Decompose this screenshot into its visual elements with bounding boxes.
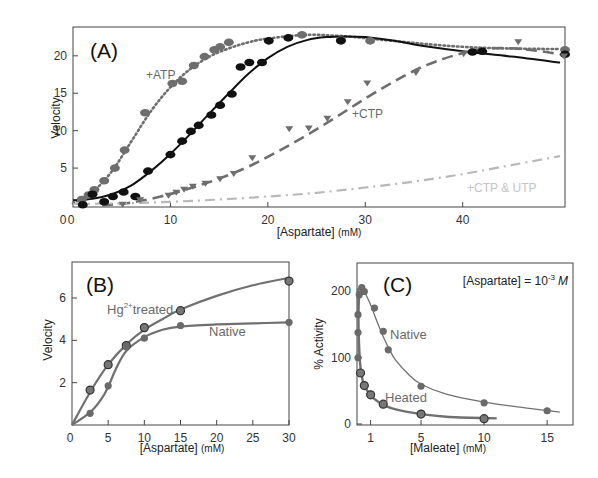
data-point — [99, 177, 109, 185]
data-point — [354, 354, 361, 361]
panel-b-curves — [72, 278, 289, 425]
data-point — [215, 43, 225, 51]
curve--atp — [73, 35, 560, 203]
data-point — [123, 343, 130, 350]
data-point — [140, 109, 150, 117]
panel-c-label: (C) — [383, 273, 412, 296]
data-point — [164, 193, 172, 199]
panel-a-chart: 01020304005101520 (A) +ATP +CTP +CTP & U… — [49, 27, 570, 239]
panel-c-xlabel: [Maleate] (mM) — [410, 441, 486, 455]
data-point — [467, 48, 477, 56]
panel-c-ylabel: % Activity — [312, 318, 326, 369]
data-point — [412, 70, 420, 76]
x-tick-label: 0 — [67, 431, 74, 445]
data-point — [514, 39, 522, 45]
data-point — [87, 190, 97, 198]
data-point — [186, 128, 196, 136]
panel-c-chart: 1510150100200 (C) [Aspartate] = 10-3M Na… — [312, 263, 573, 455]
data-point — [544, 407, 551, 414]
data-point — [86, 410, 93, 417]
data-point — [354, 329, 361, 336]
data-point — [481, 399, 488, 406]
data-point — [86, 386, 94, 394]
y-tick-label: 2 — [59, 376, 66, 390]
data-point — [230, 171, 238, 177]
data-point — [165, 151, 175, 159]
panel-b-markers — [86, 277, 293, 417]
data-point — [215, 101, 225, 109]
svg-text:0: 0 — [60, 213, 67, 227]
curve-native — [72, 322, 289, 425]
series-label-ctp: +CTP — [352, 107, 383, 121]
x-tick-label: 10 — [164, 213, 178, 227]
panel-b-chart: 051015202530246 (B) Hg2+treated Native V… — [41, 262, 296, 455]
y-tick-label: 200 — [331, 284, 351, 298]
y-tick-label: 6 — [59, 291, 66, 305]
data-point — [119, 188, 129, 196]
data-point — [380, 328, 387, 335]
curve-hg2-treated — [72, 278, 289, 425]
data-point — [361, 288, 368, 295]
series-label-hg-treated: Hg2+treated — [107, 301, 173, 317]
panel-b-label: (B) — [86, 273, 114, 296]
series-label-heated: Heated — [385, 390, 427, 405]
data-point — [141, 335, 148, 342]
data-point — [257, 59, 267, 67]
data-point — [224, 39, 234, 47]
y-tick-label: 100 — [331, 351, 351, 365]
data-point — [143, 167, 153, 175]
panel-a-xlabel: [Aspartate] (mM) — [277, 225, 362, 239]
data-point — [480, 415, 488, 423]
panel-c-markers — [354, 284, 550, 423]
data-point — [177, 77, 187, 85]
data-point — [417, 410, 425, 418]
x-tick-label: 40 — [456, 213, 470, 227]
y-tick-label: 0 — [344, 417, 351, 431]
data-point — [200, 53, 210, 61]
series-label-ctp-utp: +CTP & UTP — [467, 181, 536, 195]
data-point — [371, 304, 378, 311]
panel-a-ticks: 01020304005101520 — [54, 49, 470, 227]
data-point — [357, 369, 365, 377]
x-tick-label: 15 — [540, 431, 554, 445]
y-tick-label: 20 — [54, 49, 68, 63]
data-point — [189, 62, 199, 70]
data-point — [216, 176, 224, 182]
data-point — [99, 198, 109, 206]
data-point — [305, 125, 313, 131]
x-tick-label: 1 — [367, 431, 374, 445]
data-point — [336, 37, 346, 45]
panel-a-label: (A) — [90, 39, 118, 62]
y-tick-label: 4 — [59, 333, 66, 347]
x-tick-label: 0 — [68, 213, 75, 227]
data-point — [244, 59, 254, 67]
data-point — [285, 319, 292, 326]
x-tick-label: 5 — [105, 431, 112, 445]
curve-heated — [358, 288, 497, 418]
data-point — [417, 383, 424, 390]
series-label-atp: +ATP — [146, 68, 175, 82]
data-point — [354, 311, 361, 318]
series-label-native-b: Native — [209, 324, 246, 339]
figure: 01020304005101520 (A) +ATP +CTP +CTP & U… — [0, 0, 598, 478]
data-point — [140, 324, 148, 332]
data-point — [177, 137, 187, 145]
data-point — [283, 34, 293, 42]
panel-a-ylabel: Velocity — [49, 97, 63, 138]
data-point — [477, 48, 487, 56]
panel-a-curves — [73, 35, 560, 206]
x-tick-label: 30 — [359, 213, 373, 227]
x-tick-label: 30 — [282, 431, 296, 445]
x-tick-label: 25 — [246, 431, 260, 445]
panel-b-ylabel: Velocity — [41, 319, 55, 360]
data-point — [385, 346, 392, 353]
x-tick-label: 20 — [261, 213, 275, 227]
data-point — [104, 361, 112, 369]
data-point — [264, 37, 274, 45]
data-point — [285, 126, 293, 132]
data-point — [363, 81, 371, 87]
data-point — [110, 164, 120, 172]
data-point — [365, 37, 375, 45]
series-label-native-c: Native — [390, 327, 427, 342]
data-point — [227, 90, 237, 98]
